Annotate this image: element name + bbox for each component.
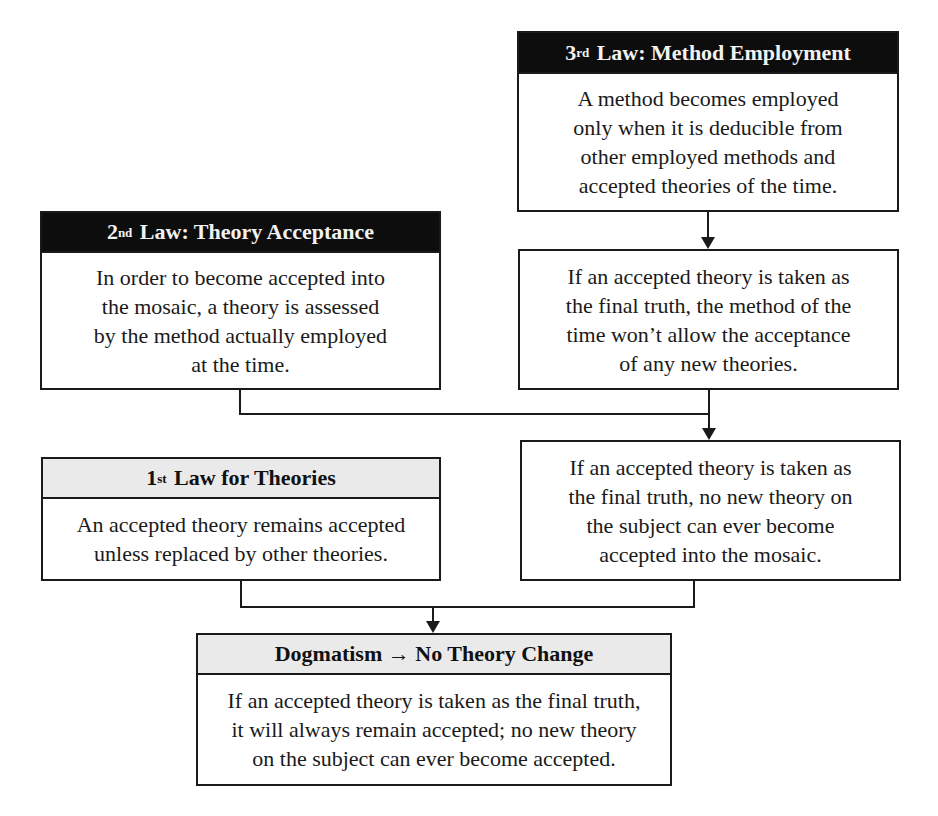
connector-to-dogmatism [432, 606, 434, 622]
connector-no-new-down [693, 580, 695, 608]
third-law-title: Law: Method Employment [591, 42, 851, 64]
dogmatism-header: Dogmatism → No Theory Change [198, 635, 670, 675]
method-consequence-line: If an accepted theory is taken as [566, 262, 851, 291]
arrow-down-icon [701, 237, 715, 249]
method-consequence-line: of any new theories. [566, 349, 851, 378]
first-law-line: unless replaced by other theories. [77, 539, 406, 568]
no-new-theory-box: If an accepted theory is taken as the fi… [520, 440, 901, 581]
connector-method-down [708, 389, 710, 429]
third-law-ordinal: 3 [565, 42, 576, 64]
first-law-body: An accepted theory remains accepted unle… [43, 499, 439, 579]
arrow-down-icon [702, 428, 716, 440]
second-law-body: In order to become accepted into the mos… [42, 253, 439, 388]
first-law-ordinal: 1 [146, 467, 157, 489]
no-new-theory-line: the final truth, no new theory on [568, 482, 852, 511]
no-new-theory-line: accepted into the mosaic. [568, 540, 852, 569]
connector-merge-horizontal [239, 413, 710, 415]
third-law-line: other employed methods and [573, 142, 842, 171]
dogmatism-box: Dogmatism → No Theory Change If an accep… [196, 633, 672, 786]
connector-merge-horizontal-2 [240, 606, 695, 608]
first-law-line: An accepted theory remains accepted [77, 510, 406, 539]
connector-second-down [239, 389, 241, 415]
first-law-header: 1st Law for Theories [43, 459, 439, 499]
second-law-ordinal: 2 [107, 221, 118, 243]
second-law-line: by the method actually employed [94, 321, 387, 350]
method-consequence-box: If an accepted theory is taken as the fi… [518, 249, 899, 390]
dogmatism-line: on the subject can ever become accepted. [228, 744, 641, 773]
third-law-line: only when it is deducible from [573, 113, 842, 142]
first-law-title: Law for Theories [169, 467, 336, 489]
third-law-line: A method becomes employed [573, 84, 842, 113]
no-new-theory-line: If an accepted theory is taken as [568, 453, 852, 482]
first-law-ordinal-suffix: st [157, 472, 166, 485]
third-law-header: 3rd Law: Method Employment [519, 33, 897, 74]
dogmatism-line: If an accepted theory is taken as the fi… [228, 686, 641, 715]
third-law-body: A method becomes employed only when it i… [519, 74, 897, 210]
second-law-line: In order to become accepted into [94, 263, 387, 292]
second-law-ordinal-suffix: nd [118, 226, 132, 239]
no-new-theory-body: If an accepted theory is taken as the fi… [522, 442, 899, 579]
third-law-ordinal-suffix: rd [576, 46, 589, 59]
second-law-line: at the time. [94, 350, 387, 379]
dogmatism-title: Dogmatism → No Theory Change [275, 643, 594, 665]
second-law-title: Law: Theory Acceptance [134, 221, 374, 243]
third-law-box: 3rd Law: Method Employment A method beco… [517, 31, 899, 212]
dogmatism-body: If an accepted theory is taken as the fi… [198, 675, 670, 784]
third-law-line: accepted theories of the time. [573, 171, 842, 200]
method-consequence-line: the final truth, the method of the [566, 291, 851, 320]
second-law-line: the mosaic, a theory is assessed [94, 292, 387, 321]
second-law-box: 2nd Law: Theory Acceptance In order to b… [40, 211, 441, 390]
no-new-theory-line: the subject can ever become [568, 511, 852, 540]
method-consequence-line: time won’t allow the acceptance [566, 320, 851, 349]
method-consequence-body: If an accepted theory is taken as the fi… [520, 251, 897, 388]
connector-third-to-method [707, 211, 709, 239]
dogmatism-line: it will always remain accepted; no new t… [228, 715, 641, 744]
arrow-down-icon [426, 621, 440, 633]
first-law-box: 1st Law for Theories An accepted theory … [41, 457, 441, 581]
second-law-header: 2nd Law: Theory Acceptance [42, 213, 439, 253]
connector-first-down [240, 580, 242, 608]
